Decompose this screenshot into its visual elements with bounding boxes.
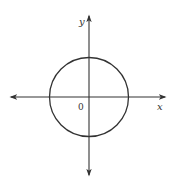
x-axis-label: x	[157, 101, 163, 112]
origin-label: 0	[78, 102, 84, 112]
coordinate-diagram: y x 0	[0, 0, 172, 185]
y-axis-label: y	[78, 16, 85, 27]
